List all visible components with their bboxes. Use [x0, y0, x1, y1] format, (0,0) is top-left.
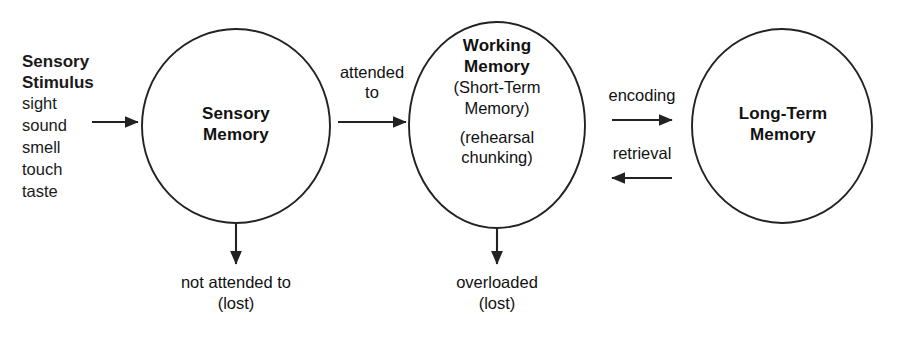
stimulus-item-taste: taste: [22, 181, 132, 203]
sensory-stimulus-heading-line2: Stimulus: [22, 73, 132, 94]
working-loss-line1: overloaded: [412, 272, 582, 293]
sensory-memory-circle: [142, 29, 330, 223]
sensory-loss-line2: (lost): [146, 293, 326, 314]
attended-to-line1: attended: [318, 63, 426, 83]
stimulus-item-smell: smell: [22, 137, 132, 159]
retrieval-edge-label: retrieval: [592, 144, 692, 164]
long-term-memory-circle: [692, 29, 872, 223]
stimulus-item-sound: sound: [22, 115, 132, 137]
attended-to-edge-label: attended to: [318, 63, 426, 103]
attended-to-line2: to: [318, 83, 426, 103]
sensory-stimulus-heading-line1: Sensory: [22, 52, 132, 73]
stimulus-item-touch: touch: [22, 159, 132, 181]
working-loss-label: overloaded (lost): [412, 272, 582, 314]
working-loss-line2: (lost): [412, 293, 582, 314]
sensory-stimulus-block: Sensory Stimulus sight sound smell touch…: [22, 52, 132, 203]
sensory-loss-label: not attended to (lost): [146, 272, 326, 314]
encoding-edge-label: encoding: [590, 86, 694, 106]
memory-model-diagram: Sensory Stimulus sight sound smell touch…: [0, 0, 900, 342]
sensory-loss-line1: not attended to: [146, 272, 326, 293]
working-memory-circle: [409, 22, 585, 228]
stimulus-item-sight: sight: [22, 93, 132, 115]
